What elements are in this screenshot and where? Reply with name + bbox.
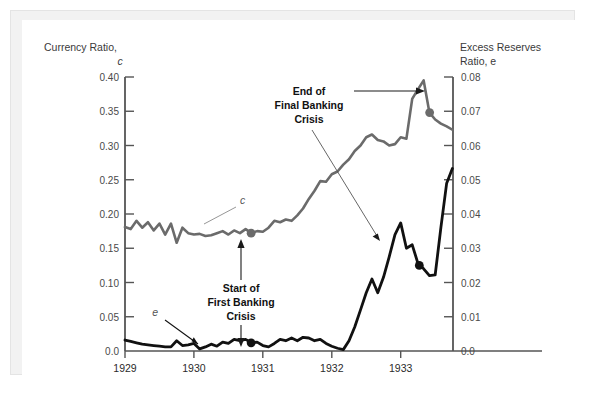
left-tick-label-0.10: 0.10: [100, 278, 120, 289]
right-tick-label-0.0: 0.0: [461, 346, 475, 357]
annotation-start-arrowhead-up: [237, 239, 244, 248]
annotation-end-line1: End of: [293, 85, 326, 97]
right-tick-label-0.06: 0.06: [461, 141, 481, 152]
series-label-e: e: [152, 306, 158, 318]
x-axis-ticks: [125, 351, 401, 358]
annotation-markers: [247, 108, 434, 347]
right-tick-label-0.07: 0.07: [461, 106, 481, 117]
left-tick-label-0.30: 0.30: [100, 141, 120, 152]
right-tick-label-0.02: 0.02: [461, 278, 481, 289]
right-tick-label-0.04: 0.04: [461, 209, 481, 220]
x-tick-label-1931: 1931: [251, 362, 275, 374]
left-tick-label-0.20: 0.20: [100, 209, 120, 220]
left-tick-label-0.15: 0.15: [100, 243, 120, 254]
right-tick-label-0.08: 0.08: [461, 72, 481, 83]
annotation-end-line2: Final Banking: [275, 99, 344, 111]
x-tick-label-1930: 1930: [182, 362, 206, 374]
left-tick-label-0.35: 0.35: [100, 106, 120, 117]
figure-panel: Currency Ratio, c Excess Reserves Ratio,…: [22, 20, 578, 378]
annotation-start-line1: Start of: [223, 282, 260, 294]
marker-end-final-banking-crisis-c: [425, 108, 434, 117]
chart-canvas: Currency Ratio, c Excess Reserves Ratio,…: [22, 20, 578, 378]
series-label-c: c: [240, 194, 246, 206]
x-tick-label-1933: 1933: [389, 362, 413, 374]
left-axis-title-symbol: c: [117, 55, 123, 67]
annotation-start-arrowhead-down: [237, 338, 244, 347]
x-tick-label-1932: 1932: [320, 362, 344, 374]
annotation-end-line3: Crisis: [294, 113, 323, 125]
annotation-start-first-banking-crisis: Start of First Banking Crisis: [207, 239, 274, 347]
annotation-end-final-banking-crisis: End of Final Banking Crisis: [275, 85, 425, 241]
left-tick-label-0.0: 0.0: [105, 346, 119, 357]
annotation-end-arrowhead-lower: [373, 233, 380, 241]
x-axis-tick-labels: 1929 1930 1931 1932 1933: [113, 362, 412, 374]
right-tick-label-0.05: 0.05: [461, 175, 481, 186]
annotation-start-line3: Crisis: [226, 310, 255, 322]
annotation-start-line2: First Banking: [207, 296, 274, 308]
right-axis-title-line2: Ratio, e: [460, 55, 496, 67]
right-axis-tick-labels: 0.08 0.07 0.06 0.05 0.04 0.03 0.02 0.01 …: [461, 72, 481, 357]
left-axis-title-line1: Currency Ratio,: [44, 41, 117, 53]
marker-start-first-banking-crisis-c: [247, 229, 256, 238]
left-tick-label-0.25: 0.25: [100, 175, 120, 186]
series-c-leader-line: [204, 207, 236, 224]
right-tick-label-0.01: 0.01: [461, 312, 481, 323]
left-axis-tick-labels: 0.40 0.35 0.30 0.25 0.20 0.15 0.10 0.05 …: [100, 72, 120, 357]
left-axis-ticks: [125, 77, 134, 317]
figure-root: Currency Ratio, c Excess Reserves Ratio,…: [0, 0, 602, 418]
annotation-end-arrowhead-upper: [416, 87, 425, 94]
marker-end-final-banking-crisis-e: [415, 261, 424, 270]
series-line-excess-reserves: [125, 168, 452, 349]
marker-start-first-banking-crisis-e: [247, 338, 256, 347]
annotation-end-leader-lower: [312, 130, 377, 236]
left-tick-label-0.05: 0.05: [100, 312, 120, 323]
right-axis-title-line1: Excess Reserves: [460, 41, 541, 53]
left-tick-label-0.40: 0.40: [100, 72, 120, 83]
x-tick-label-1929: 1929: [113, 362, 137, 374]
right-tick-label-0.03: 0.03: [461, 243, 481, 254]
